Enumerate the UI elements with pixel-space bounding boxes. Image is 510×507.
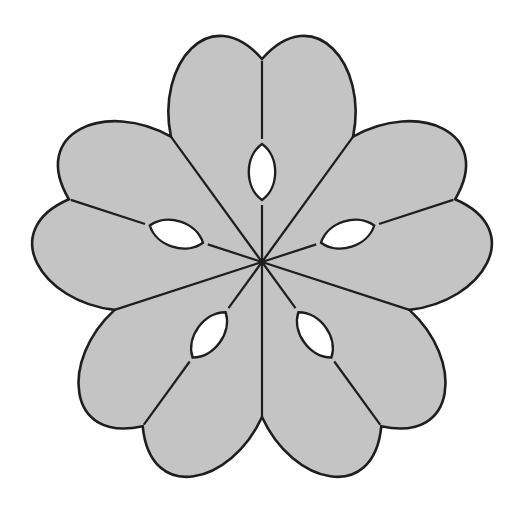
flower-diagram [0,0,510,507]
